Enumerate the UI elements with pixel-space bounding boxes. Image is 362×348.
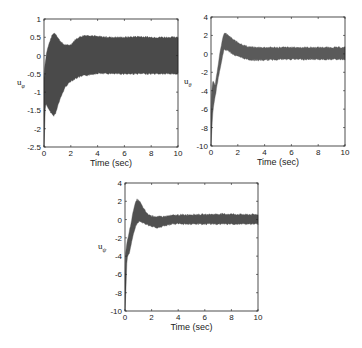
x-tick-label: 0 bbox=[209, 148, 214, 157]
x-tick-label: 4 bbox=[176, 313, 181, 322]
x-tick-label: 4 bbox=[262, 148, 267, 157]
y-tick-label: -6 bbox=[115, 270, 123, 279]
y-tick-label: -10 bbox=[110, 307, 122, 316]
y-axis-title-subscript: φ bbox=[22, 83, 26, 89]
x-tick-label: 0 bbox=[42, 149, 47, 158]
x-tick-label: 10 bbox=[341, 148, 350, 157]
plot-frame bbox=[125, 183, 258, 311]
y-axis-title: uθ bbox=[184, 76, 192, 88]
y-tick-label: -1.5 bbox=[27, 106, 41, 115]
x-tick-label: 10 bbox=[254, 313, 263, 322]
y-tick-label: -8 bbox=[115, 289, 123, 298]
x-tick-label: 0 bbox=[123, 313, 128, 322]
y-tick-label: 1 bbox=[37, 15, 42, 24]
y-tick-label: 4 bbox=[204, 13, 209, 22]
plot-frame bbox=[211, 17, 345, 146]
chart-theta: 0246810 -10-8-6-4-2024 Time (sec) uθ bbox=[184, 13, 350, 167]
x-tick-label: 6 bbox=[289, 148, 294, 157]
x-axis-title: Time (sec) bbox=[170, 322, 212, 332]
x-tick-label: 8 bbox=[316, 148, 321, 157]
y-tick-label: 0 bbox=[118, 216, 123, 225]
x-tick-label: 8 bbox=[229, 313, 234, 322]
y-tick-label: -2 bbox=[201, 68, 209, 77]
x-tick-label: 8 bbox=[149, 149, 154, 158]
chart-psi: 0246810 -10-8-6-4-2024 Time (sec) uψ bbox=[98, 179, 263, 332]
x-tick-label: 2 bbox=[236, 148, 241, 157]
x-tick-label: 6 bbox=[122, 149, 127, 158]
signal-envelope-area bbox=[44, 33, 178, 147]
y-axis-title-subscript: θ bbox=[189, 82, 192, 88]
y-axis: -10-8-6-4-2024 bbox=[110, 179, 258, 316]
x-tick-label: 2 bbox=[69, 149, 74, 158]
y-tick-label: -10 bbox=[196, 142, 208, 151]
y-axis-title-subscript: ψ bbox=[103, 247, 107, 253]
y-tick-label: -4 bbox=[201, 87, 209, 96]
x-tick-label: 10 bbox=[174, 149, 183, 158]
y-tick-label: 2 bbox=[204, 31, 209, 40]
figure: 0246810 -2.5-2-1.5-1-0.500.51 Time (sec)… bbox=[0, 0, 362, 348]
y-tick-label: 2 bbox=[118, 197, 123, 206]
x-axis: 0246810 bbox=[123, 183, 263, 322]
signal-envelope-area bbox=[125, 199, 258, 311]
y-tick-label: -2.5 bbox=[27, 143, 41, 152]
y-tick-label: 4 bbox=[118, 179, 123, 188]
y-tick-label: 0 bbox=[204, 50, 209, 59]
y-axis-title: uφ bbox=[17, 77, 26, 89]
x-axis-title: Time (sec) bbox=[257, 157, 299, 167]
signal-envelope-area bbox=[211, 33, 345, 146]
x-tick-label: 2 bbox=[149, 313, 154, 322]
y-axis-title: uψ bbox=[98, 241, 107, 253]
y-tick-label: 0.5 bbox=[30, 33, 42, 42]
y-tick-label: -6 bbox=[201, 105, 209, 114]
chart-phi: 0246810 -2.5-2-1.5-1-0.500.51 Time (sec)… bbox=[17, 15, 183, 168]
y-tick-label: 0 bbox=[37, 52, 42, 61]
y-tick-label: -1 bbox=[34, 88, 42, 97]
y-tick-label: -2 bbox=[115, 234, 123, 243]
y-tick-label: -0.5 bbox=[27, 70, 41, 79]
y-axis: -10-8-6-4-2024 bbox=[196, 13, 345, 151]
y-tick-label: -8 bbox=[201, 124, 209, 133]
y-tick-label: -4 bbox=[115, 252, 123, 261]
x-tick-label: 6 bbox=[203, 313, 208, 322]
y-tick-label: -2 bbox=[34, 125, 42, 134]
x-axis-title: Time (sec) bbox=[90, 158, 132, 168]
x-tick-label: 4 bbox=[95, 149, 100, 158]
